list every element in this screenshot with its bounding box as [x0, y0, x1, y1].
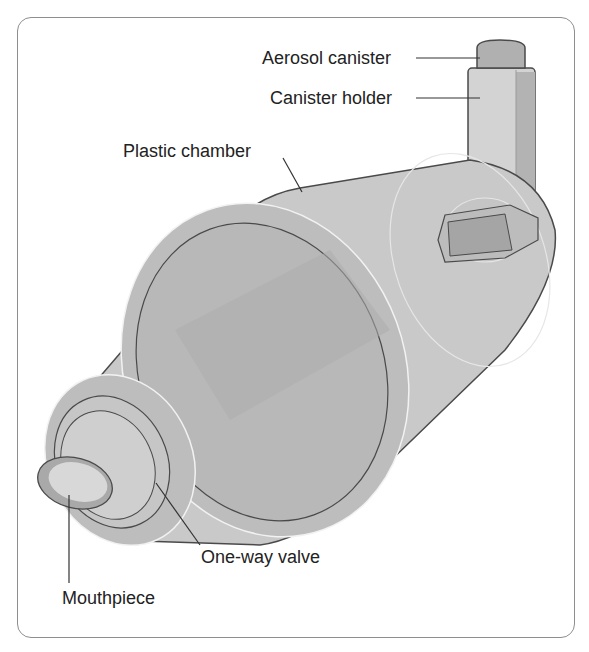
- label-plastic-chamber: Plastic chamber: [123, 142, 251, 160]
- leader-plastic-chamber: [283, 158, 302, 192]
- label-one-way-valve: One-way valve: [201, 548, 320, 566]
- aerosol-canister-shape: [477, 40, 525, 68]
- label-mouthpiece: Mouthpiece: [62, 589, 155, 607]
- label-aerosol-canister: Aerosol canister: [262, 49, 391, 67]
- label-canister-holder: Canister holder: [270, 89, 392, 107]
